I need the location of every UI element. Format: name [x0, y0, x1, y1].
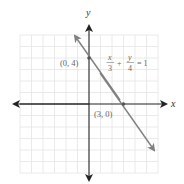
y-axis-label: y: [85, 7, 91, 18]
point-3-0: [122, 102, 126, 106]
coordinate-graph: y x (0, 4) (3, 0) x 3 + y 4 = 1: [0, 0, 184, 184]
equation: x 3 + y 4 = 1: [107, 53, 148, 73]
point-label-3-0: (3, 0): [94, 109, 113, 119]
point-label-0-4: (0, 4): [60, 58, 79, 68]
eq-plus: +: [117, 59, 122, 68]
eq-den-4: 4: [128, 64, 132, 73]
graph-line: [75, 36, 120, 100]
eq-num-y: y: [127, 53, 132, 62]
eq-num-x: x: [107, 53, 112, 62]
point-0-4: [87, 56, 91, 60]
eq-equals: = 1: [137, 59, 148, 68]
x-axis-label: x: [170, 98, 176, 109]
eq-den-3: 3: [108, 64, 112, 73]
